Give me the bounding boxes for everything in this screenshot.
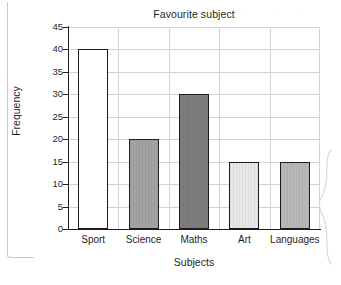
chart-title: Favourite subject (68, 8, 320, 20)
x-tick-label: Art (219, 233, 269, 249)
plot-area (68, 27, 320, 229)
y-tick-label: 40 (37, 44, 63, 54)
y-tick-label: 5 (37, 202, 63, 212)
y-tick-label: 25 (37, 112, 63, 122)
y-tick-label: 30 (37, 89, 63, 99)
x-tick-label: Languages (270, 233, 320, 249)
y-tick-mark (63, 27, 68, 28)
y-axis-tick-labels: 051015202530354045 (33, 0, 63, 285)
bar-science (129, 139, 159, 229)
y-tick-mark (63, 139, 68, 140)
x-axis-line (67, 229, 321, 230)
y-tick-label: 45 (37, 22, 63, 32)
y-axis-title: Frequency (10, 71, 22, 151)
y-tick-mark (63, 117, 68, 118)
x-tick-label: Science (118, 233, 168, 249)
bar-languages (280, 162, 310, 229)
x-tick-label: Maths (169, 233, 219, 249)
bar-maths (179, 94, 209, 229)
y-tick-mark (63, 94, 68, 95)
bar-art (229, 162, 259, 229)
y-tick-label: 35 (37, 67, 63, 77)
x-axis-title: Subjects (68, 256, 320, 268)
y-tick-label: 20 (37, 134, 63, 144)
bars-group (68, 27, 320, 229)
y-tick-mark (63, 72, 68, 73)
y-tick-label: 0 (37, 224, 63, 234)
y-tick-mark (63, 184, 68, 185)
bar-chart-figure: Favourite subject 051015202530354045 Fre… (0, 0, 341, 285)
y-tick-mark (63, 207, 68, 208)
x-tick-label: Sport (68, 233, 118, 249)
y-tick-label: 10 (37, 179, 63, 189)
y-tick-mark (63, 49, 68, 50)
y-tick-label: 15 (37, 157, 63, 167)
y-tick-mark (63, 229, 68, 230)
y-tick-mark (63, 162, 68, 163)
y-axis-line (68, 26, 69, 230)
bar-sport (78, 49, 108, 229)
x-axis-tick-labels: SportScienceMathsArtLanguages (68, 233, 320, 249)
